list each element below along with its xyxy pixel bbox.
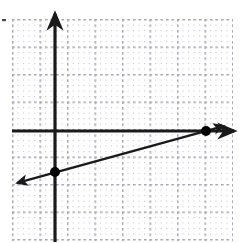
- coordinate-plane-svg: [0, 0, 241, 243]
- corner-tick-mark-icon: [2, 19, 6, 21]
- x-intercept-point: [201, 126, 211, 136]
- y-intercept-point: [50, 167, 60, 177]
- graph-figure: [0, 0, 241, 243]
